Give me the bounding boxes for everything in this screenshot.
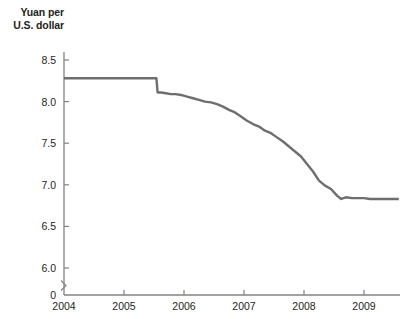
x-tick-label: 2005 <box>112 300 136 312</box>
x-tick-label: 2007 <box>232 300 256 312</box>
y-tick-label: 6.5 <box>41 220 56 232</box>
x-tick-label: 2006 <box>172 300 196 312</box>
x-tick-label: 2004 <box>52 300 76 312</box>
data-series-line <box>64 78 399 199</box>
chart-container: Yuan per U.S. dollar 06.06.57.07.58.08.5… <box>0 0 407 319</box>
exchange-rate-line-chart: 06.06.57.07.58.08.5200420052006200720082… <box>0 0 407 319</box>
x-tick-label: 2008 <box>292 300 316 312</box>
y-tick-label: 7.0 <box>41 179 56 191</box>
x-tick-label: 2009 <box>352 300 376 312</box>
y-tick-label: 7.5 <box>41 137 56 149</box>
y-tick-label: 8.5 <box>41 54 56 66</box>
y-tick-label: 8.0 <box>41 96 56 108</box>
y-tick-label: 6.0 <box>41 262 56 274</box>
